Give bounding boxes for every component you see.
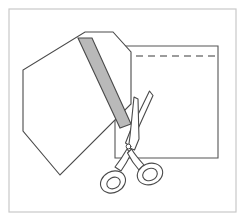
scissors-pivot-screw bbox=[126, 144, 131, 149]
cutting-diagram-figure bbox=[0, 0, 245, 221]
illustration-canvas bbox=[0, 0, 245, 221]
